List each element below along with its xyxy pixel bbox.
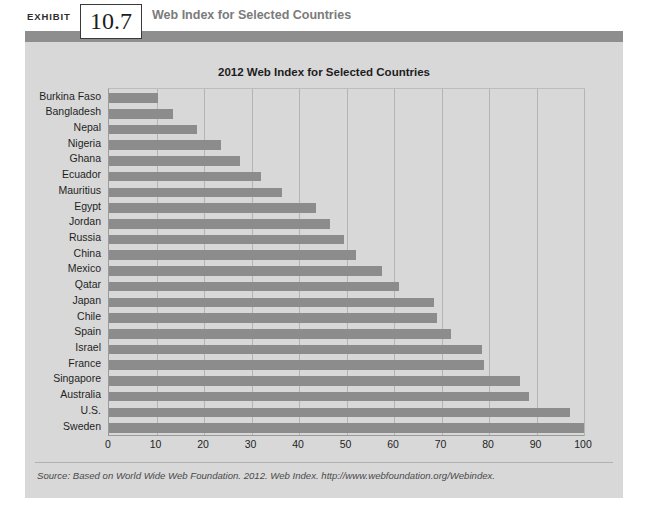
category-label-jordan: Jordan: [0, 215, 101, 227]
x-tick-100: 100: [574, 438, 592, 450]
bar-ecuador: [109, 172, 261, 182]
bar-row: France: [109, 356, 584, 372]
x-tick-0: 0: [105, 438, 111, 450]
bar-row: Egypt: [109, 199, 584, 215]
category-label-egypt: Egypt: [0, 200, 101, 212]
category-label-burkina-faso: Burkina Faso: [0, 90, 101, 102]
source-note: Source: Based on World Wide Web Foundati…: [37, 470, 495, 481]
bar-israel: [109, 345, 482, 355]
bar-mauritius: [109, 188, 282, 198]
bar-egypt: [109, 203, 316, 213]
x-tick-20: 20: [197, 438, 209, 450]
gridline-100: [584, 89, 585, 435]
category-label-sweden: Sweden: [0, 420, 101, 432]
category-label-nigeria: Nigeria: [0, 137, 101, 149]
bar-row: Qatar: [109, 278, 584, 294]
bar-row: Ecuador: [109, 168, 584, 184]
bar-france: [109, 360, 484, 370]
source-divider: [35, 462, 613, 463]
bar-nigeria: [109, 140, 221, 150]
bar-singapore: [109, 376, 520, 386]
exhibit-title: Web Index for Selected Countries: [152, 8, 351, 22]
bar-chile: [109, 313, 437, 323]
category-label-singapore: Singapore: [0, 372, 101, 384]
bar-qatar: [109, 282, 399, 292]
bar-row: Australia: [109, 388, 584, 404]
bar-row: Sweden: [109, 419, 584, 435]
bar-row: Jordan: [109, 215, 584, 231]
bar-sweden: [109, 423, 584, 433]
bar-row: Nigeria: [109, 136, 584, 152]
bar-row: Russia: [109, 230, 584, 246]
category-label-russia: Russia: [0, 231, 101, 243]
category-label-nepal: Nepal: [0, 121, 101, 133]
x-tick-80: 80: [482, 438, 494, 450]
x-tick-40: 40: [292, 438, 304, 450]
bar-row: Mexico: [109, 262, 584, 278]
category-label-israel: Israel: [0, 341, 101, 353]
bar-jordan: [109, 219, 330, 229]
exhibit-kicker-label: EXHIBIT: [27, 11, 71, 22]
bar-chart-plot-area: Burkina FasoBangladeshNepalNigeriaGhanaE…: [108, 88, 585, 436]
exhibit-number-box: 10.7: [80, 4, 142, 39]
category-label-bangladesh: Bangladesh: [0, 105, 101, 117]
bar-mexico: [109, 266, 382, 276]
x-tick-50: 50: [340, 438, 352, 450]
bar-series: Burkina FasoBangladeshNepalNigeriaGhanaE…: [109, 89, 584, 435]
bar-row: China: [109, 246, 584, 262]
bar-bangladesh: [109, 109, 173, 119]
bar-row: Bangladesh: [109, 105, 584, 121]
bar-row: Chile: [109, 309, 584, 325]
bar-spain: [109, 329, 451, 339]
category-label-france: France: [0, 357, 101, 369]
x-tick-60: 60: [387, 438, 399, 450]
x-tick-70: 70: [435, 438, 447, 450]
category-label-ecuador: Ecuador: [0, 168, 101, 180]
bar-russia: [109, 235, 344, 245]
category-label-mexico: Mexico: [0, 262, 101, 274]
bar-australia: [109, 392, 529, 402]
x-tick-90: 90: [530, 438, 542, 450]
category-label-ghana: Ghana: [0, 152, 101, 164]
bar-row: Burkina Faso: [109, 89, 584, 105]
bar-china: [109, 250, 356, 260]
bar-row: Israel: [109, 341, 584, 357]
chart-title: 2012 Web Index for Selected Countries: [25, 66, 623, 78]
bar-row: Spain: [109, 325, 584, 341]
category-label-australia: Australia: [0, 388, 101, 400]
category-label-u-s: U.S.: [0, 404, 101, 416]
x-tick-10: 10: [150, 438, 162, 450]
x-tick-30: 30: [245, 438, 257, 450]
bar-row: U.S.: [109, 403, 584, 419]
category-label-spain: Spain: [0, 325, 101, 337]
x-axis-tick-labels: 0102030405060708090100: [108, 438, 583, 456]
bar-burkina-faso: [109, 93, 158, 103]
bar-row: Nepal: [109, 120, 584, 136]
figure-panel: 2012 Web Index for Selected Countries Bu…: [25, 42, 623, 498]
bar-nepal: [109, 125, 197, 135]
bar-row: Mauritius: [109, 183, 584, 199]
bar-japan: [109, 298, 434, 308]
bar-row: Japan: [109, 293, 584, 309]
bar-row: Singapore: [109, 372, 584, 388]
category-label-chile: Chile: [0, 310, 101, 322]
category-label-china: China: [0, 247, 101, 259]
category-label-qatar: Qatar: [0, 278, 101, 290]
bar-ghana: [109, 156, 240, 166]
bar-row: Ghana: [109, 152, 584, 168]
category-label-japan: Japan: [0, 294, 101, 306]
bar-u-s: [109, 408, 570, 418]
category-label-mauritius: Mauritius: [0, 184, 101, 196]
exhibit-number: 10.7: [90, 8, 132, 34]
exhibit-header: EXHIBIT 10.7 Web Index for Selected Coun…: [0, 0, 645, 46]
